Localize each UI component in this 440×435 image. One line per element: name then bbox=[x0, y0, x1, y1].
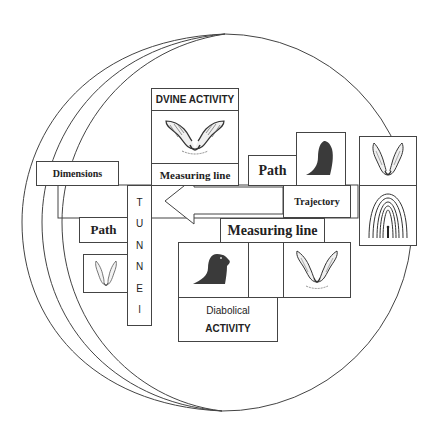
bottom-spacer-panel bbox=[248, 242, 284, 298]
tunnel-letter: N bbox=[136, 241, 143, 251]
dimensions-label: Dimensions bbox=[36, 161, 119, 186]
angel-wings-icon bbox=[292, 248, 342, 292]
tunnel-letter: T bbox=[136, 198, 142, 208]
angel-wings-icon bbox=[368, 141, 408, 181]
diabolical-title-line1: Diabolical bbox=[206, 305, 249, 316]
tunnel-letter: U bbox=[136, 219, 143, 229]
dark-figure-icon bbox=[191, 250, 237, 290]
tunnel-letter: E bbox=[136, 284, 143, 294]
path-left-label: Path bbox=[79, 217, 128, 243]
diabolical-wings-panel bbox=[283, 242, 351, 298]
tunnel-column: T U N N E l bbox=[127, 185, 152, 326]
tunnel-letter: N bbox=[136, 262, 143, 272]
angel-wings-icon bbox=[164, 115, 226, 159]
path-top-label: Path bbox=[248, 155, 297, 186]
tunnel-of-light-icon bbox=[365, 190, 411, 242]
measuring-line-lower: Measuring line bbox=[220, 218, 325, 243]
diagram-stage: DVINE ACTIVITY Measuring line Dimensions… bbox=[0, 0, 440, 435]
right-tunnel-panel bbox=[359, 185, 417, 246]
divine-wings-panel bbox=[151, 110, 239, 164]
path-left-wings-panel bbox=[83, 254, 128, 293]
trajectory-label: Trajectory bbox=[283, 185, 351, 218]
diabolical-title-line2: ACTIVITY bbox=[205, 323, 251, 334]
right-wings-panel bbox=[359, 136, 417, 186]
path-top-figure-panel bbox=[296, 132, 346, 186]
divine-activity-title: DVINE ACTIVITY bbox=[151, 88, 239, 111]
dark-figure-icon bbox=[304, 139, 338, 179]
measuring-line-top: Measuring line bbox=[151, 163, 239, 186]
angel-wings-icon bbox=[92, 259, 120, 289]
tunnel-letter: l bbox=[138, 305, 140, 315]
diabolical-activity-label: Diabolical ACTIVITY bbox=[178, 297, 278, 342]
diabolical-figure-panel bbox=[178, 242, 249, 298]
